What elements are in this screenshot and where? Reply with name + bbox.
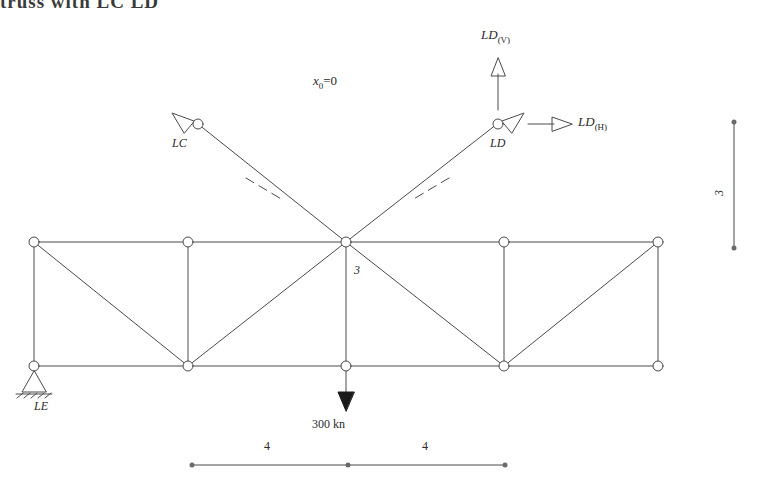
label-ld: LD bbox=[490, 137, 505, 149]
truss-diagram bbox=[0, 0, 759, 487]
figure-canvas: truss with LC LD bbox=[0, 0, 759, 487]
label-node-3: 3 bbox=[354, 264, 360, 276]
reaction-arrow-ld-vertical bbox=[491, 58, 505, 110]
dashed-reference-lines bbox=[246, 178, 449, 200]
dimension-horizontal bbox=[190, 463, 508, 468]
load-arrow-300kn bbox=[338, 371, 354, 411]
label-x0: x0=0 bbox=[313, 74, 337, 91]
support-ld bbox=[493, 113, 524, 133]
label-le: LE bbox=[34, 400, 48, 412]
reaction-arrow-ld-horizontal bbox=[528, 117, 572, 131]
label-dim-height: 3 bbox=[712, 190, 727, 196]
upper-struts bbox=[198, 124, 497, 242]
label-load-300kn: 300 kn bbox=[312, 418, 345, 430]
support-lc bbox=[172, 113, 203, 133]
support-le bbox=[16, 371, 52, 398]
dimension-vertical bbox=[732, 120, 737, 251]
label-ld-vertical: LD(V) bbox=[481, 28, 510, 45]
label-ld-horizontal: LD(H) bbox=[578, 115, 607, 132]
label-lc: LC bbox=[172, 137, 187, 149]
label-dim-left: 4 bbox=[264, 440, 270, 452]
vertical-members bbox=[34, 242, 658, 366]
label-dim-right: 4 bbox=[422, 440, 428, 452]
